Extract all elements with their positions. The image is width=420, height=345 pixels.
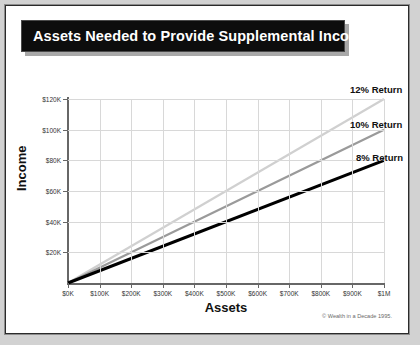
y-axis-tick <box>63 130 68 131</box>
series-label-8: 8% Return <box>356 152 403 163</box>
gridline-horizontal <box>68 160 384 161</box>
x-axis-tick-label: $1M <box>378 290 391 297</box>
x-axis-tick-label: $300K <box>153 290 172 297</box>
y-axis-title: Income <box>14 145 29 191</box>
y-axis-tick <box>63 99 68 100</box>
y-axis-tick-label: $60K <box>46 188 61 195</box>
gridline-horizontal <box>68 222 384 223</box>
x-axis-tick-label: $900K <box>343 290 362 297</box>
x-axis-tick-label: $100K <box>90 290 109 297</box>
y-axis-tick-label: $20K <box>46 249 61 256</box>
x-axis-tick <box>258 283 259 288</box>
y-axis-tick <box>63 160 68 161</box>
chart: $0K$100K$200K$300K$400K$500K$600K$700K$8… <box>6 6 410 333</box>
series-label-10: 10% Return <box>350 119 402 130</box>
gridline-horizontal <box>68 252 384 253</box>
y-axis-tick-label: $120K <box>42 96 61 103</box>
y-axis-tick <box>63 222 68 223</box>
x-axis-tick <box>100 283 101 288</box>
chart-card: Assets Needed to Provide Supplemental In… <box>5 5 409 334</box>
x-axis-tick <box>68 283 69 288</box>
copyright-note: © Wealth in a Decade 1995. <box>322 313 392 319</box>
x-axis-tick-label: $700K <box>280 290 299 297</box>
y-axis-tick <box>63 252 68 253</box>
x-axis-tick <box>226 283 227 288</box>
x-axis-tick <box>289 283 290 288</box>
x-axis-tick <box>163 283 164 288</box>
x-axis-tick-label: $500K <box>217 290 236 297</box>
x-axis-tick <box>352 283 353 288</box>
y-axis-tick-label: $40K <box>46 218 61 225</box>
screenshot-root: Assets Needed to Provide Supplemental In… <box>0 0 420 345</box>
series-label-12: 12% Return <box>350 84 402 95</box>
y-axis-tick-label: $80K <box>46 157 61 164</box>
gridline-horizontal <box>68 99 384 100</box>
x-axis-tick-label: $800K <box>311 290 330 297</box>
x-axis-tick-label: $400K <box>185 290 204 297</box>
x-axis-tick <box>194 283 195 288</box>
gridline-horizontal <box>68 191 384 192</box>
gridline-horizontal <box>68 130 384 131</box>
x-axis-tick-label: $0K <box>62 290 74 297</box>
x-axis-tick <box>131 283 132 288</box>
x-axis-tick <box>321 283 322 288</box>
x-axis-tick-label: $600K <box>248 290 267 297</box>
x-axis-tick-label: $200K <box>122 290 141 297</box>
y-axis-tick <box>63 191 68 192</box>
x-axis-tick <box>384 283 385 288</box>
plot-area: $0K$100K$200K$300K$400K$500K$600K$700K$8… <box>68 99 384 283</box>
y-axis-tick-label: $100K <box>42 126 61 133</box>
